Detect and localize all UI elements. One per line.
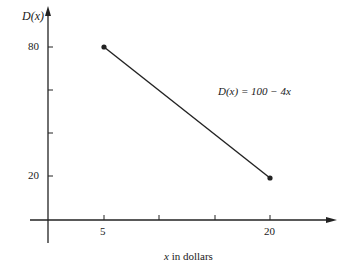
x-ticks	[104, 215, 270, 220]
equation-label: D(x) = 100 − 4x	[218, 85, 291, 97]
y-axis-arrow-icon	[45, 6, 51, 16]
endpoint-marker	[101, 44, 106, 49]
x-axis-unit: in dollars	[169, 250, 213, 262]
x-axis-label: x in dollars	[164, 250, 213, 262]
y-ticks	[48, 47, 53, 176]
y-axis-label: D(x)	[22, 9, 44, 24]
endpoint-marker	[267, 175, 272, 180]
x-tick-label-20: 20	[264, 225, 275, 237]
y-tick-label-20: 20	[28, 169, 39, 181]
x-axis-arrow-icon	[326, 217, 337, 223]
demand-line	[104, 47, 270, 178]
x-tick-label-5: 5	[100, 225, 106, 237]
chart-canvas	[0, 0, 350, 272]
y-tick-label-80: 80	[28, 40, 39, 52]
